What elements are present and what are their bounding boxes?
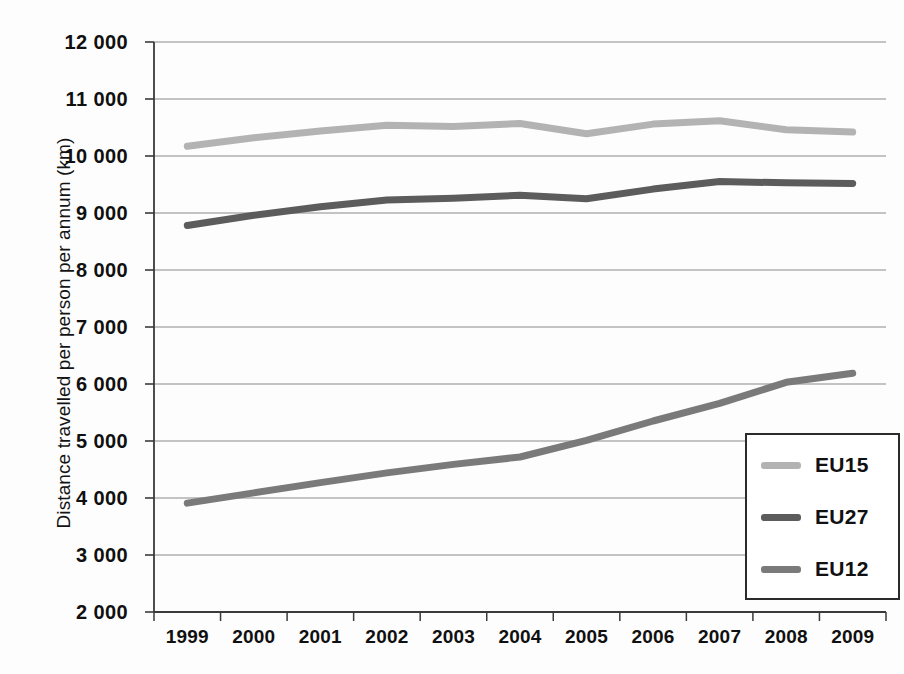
series-line-eu27 bbox=[187, 182, 852, 226]
legend-item-eu12: EU12 bbox=[761, 557, 869, 581]
legend-swatch-icon bbox=[761, 514, 801, 521]
x-axis-tick-label: 2009 bbox=[808, 626, 898, 648]
x-axis-ticks bbox=[154, 612, 886, 621]
legend-label: EU27 bbox=[815, 505, 869, 529]
legend-item-eu27: EU27 bbox=[761, 505, 869, 529]
legend: EU15EU27EU12 bbox=[745, 433, 900, 600]
legend-label: EU15 bbox=[815, 453, 869, 477]
legend-swatch-icon bbox=[761, 566, 801, 573]
legend-item-eu15: EU15 bbox=[761, 453, 869, 477]
line-chart: Distance travelled per person per annum … bbox=[0, 0, 904, 674]
legend-label: EU12 bbox=[815, 557, 869, 581]
legend-swatch-icon bbox=[761, 462, 801, 469]
series-line-eu15 bbox=[187, 121, 852, 147]
